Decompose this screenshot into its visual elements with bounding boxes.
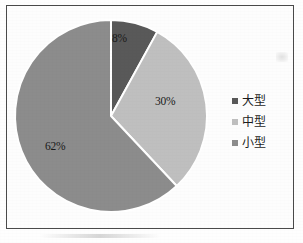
legend-swatch-icon-small [232, 140, 238, 146]
legend-swatch-icon-large [232, 98, 238, 104]
pie-slice-label-small: 62% [45, 140, 65, 152]
legend-item-small[interactable]: 小型 [232, 134, 288, 151]
legend-item-large[interactable]: 大型 [232, 92, 288, 109]
legend-label-large: 大型 [242, 95, 266, 107]
figure-root: 8% 30% 62% 大型 中型 小型 [0, 0, 303, 243]
legend-swatch-icon-medium [232, 119, 238, 125]
chart-legend: 大型 中型 小型 [232, 92, 288, 155]
legend-label-small: 小型 [242, 137, 266, 149]
pie-slice-label-medium: 30% [155, 95, 175, 107]
pie-slice-group [15, 20, 207, 212]
pie-slice-label-large: 8% [112, 32, 127, 44]
legend-label-medium: 中型 [242, 116, 266, 128]
legend-item-medium[interactable]: 中型 [232, 113, 288, 130]
